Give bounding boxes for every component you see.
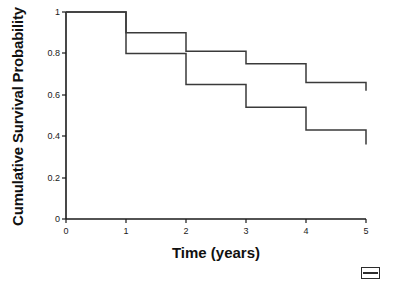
curves: [66, 12, 366, 145]
legend-box-artifact: [361, 267, 380, 279]
plot-area-svg: [0, 0, 395, 294]
survival-chart-figure: Cumulative Survival Probability Time (ye…: [0, 0, 395, 294]
axis-lines: [66, 12, 366, 219]
survival-curve-lower: [66, 12, 366, 145]
survival-curve-upper: [66, 12, 366, 91]
